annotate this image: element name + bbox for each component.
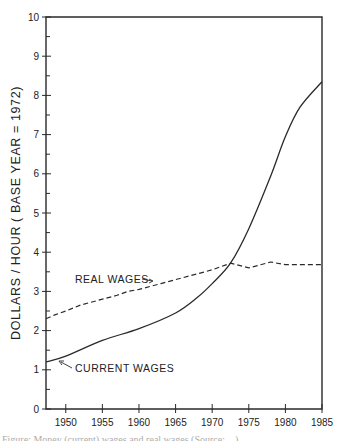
current-wages-line	[46, 82, 322, 362]
y-tick-label: 5	[33, 208, 39, 219]
x-tick-label: 1975	[238, 417, 261, 428]
y-tick-label: 9	[33, 51, 39, 62]
x-tick-label: 1960	[128, 417, 151, 428]
y-tick-label: 6	[33, 168, 39, 179]
current-wages-label: CURRENT WAGES	[75, 362, 174, 374]
x-axis-ticks: 19501955196019651970197519801985	[55, 404, 334, 428]
y-tick-label: 10	[28, 12, 40, 23]
x-tick-label: 1985	[311, 417, 334, 428]
wages-line-chart: 012345678910 195019551960196519701975198…	[0, 0, 343, 441]
y-axis-ticks: 012345678910	[28, 12, 51, 415]
y-tick-label: 4	[33, 247, 39, 258]
figure-caption: Figure: Money (current) wages and real w…	[2, 433, 343, 441]
current-wages-pointer-icon	[61, 362, 72, 368]
y-tick-label: 3	[33, 286, 39, 297]
y-tick-label: 2	[33, 325, 39, 336]
plot-axes	[46, 17, 322, 409]
plot-frame	[46, 17, 322, 409]
x-tick-label: 1965	[164, 417, 187, 428]
x-tick-label: 1955	[91, 417, 114, 428]
real-wages-label: REAL WAGES	[75, 273, 149, 285]
real-wages-line	[46, 262, 322, 319]
y-axis-label: DOLLARS / HOUR ( BASE YEAR = 1972)	[9, 86, 23, 340]
y-tick-label: 8	[33, 90, 39, 101]
y-tick-label: 1	[33, 364, 39, 375]
y-tick-label: 7	[33, 129, 39, 140]
x-tick-label: 1980	[274, 417, 297, 428]
x-tick-label: 1970	[201, 417, 224, 428]
y-tick-label: 0	[33, 404, 39, 415]
x-tick-label: 1950	[55, 417, 78, 428]
